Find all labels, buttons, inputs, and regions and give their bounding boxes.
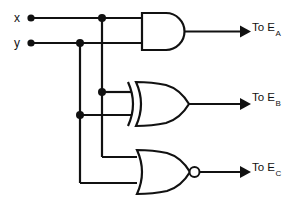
output-label-ec-text: To E xyxy=(252,161,275,173)
junction-dot-x-and xyxy=(98,14,106,22)
inversion-bubble-icon xyxy=(190,167,200,177)
output-label-ea-text: To E xyxy=(252,21,275,33)
arrowhead-output-b xyxy=(240,98,251,110)
output-label-eb: To EB xyxy=(252,92,280,106)
output-label-ec-subscript: C xyxy=(276,169,282,178)
nor-gate-icon xyxy=(137,150,190,194)
arrowhead-output-c xyxy=(240,166,251,178)
output-label-eb-text: To E xyxy=(252,91,275,103)
output-label-eb-subscript: B xyxy=(276,99,281,108)
junction-dot-x-xor xyxy=(98,88,106,96)
xor-gate-icon xyxy=(136,82,189,126)
input-label-x: x xyxy=(14,12,20,24)
xor-extra-arc-icon xyxy=(128,82,133,126)
logic-circuit-diagram: x y To EA To EB To EC xyxy=(0,0,300,203)
junction-dot-y-and xyxy=(76,39,84,47)
arrowhead-output-a xyxy=(240,26,251,38)
output-label-ea: To EA xyxy=(252,22,280,36)
output-label-ea-subscript: A xyxy=(276,29,281,38)
output-label-ec: To EC xyxy=(252,162,281,176)
and-gate-icon xyxy=(142,13,185,50)
junction-dot-y-xor xyxy=(76,111,84,119)
input-label-y: y xyxy=(14,37,20,49)
